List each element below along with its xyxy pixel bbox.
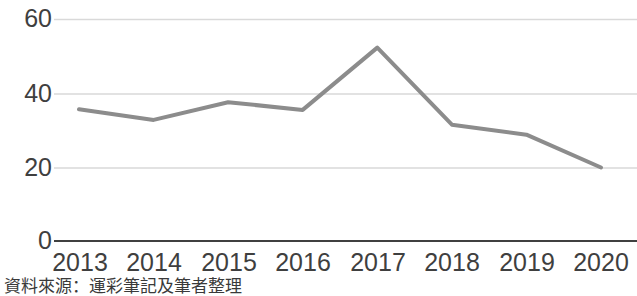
series-line	[79, 48, 601, 168]
y-tick-label-40: 40	[6, 81, 52, 106]
x-tick-label-2018: 2018	[424, 248, 480, 276]
y-tick-label-0: 0	[6, 228, 52, 253]
source-note: 資料來源：運彩筆記及筆者整理	[4, 277, 242, 296]
x-tick-label-2020: 2020	[573, 248, 629, 276]
x-tick-label-2015: 2015	[201, 248, 257, 276]
x-tick-label-2014: 2014	[126, 248, 182, 276]
x-tick-label-2016: 2016	[275, 248, 331, 276]
y-tick-label-60: 60	[6, 6, 52, 31]
x-tick-label-2013: 2013	[52, 248, 108, 276]
x-tick-label-2017: 2017	[350, 248, 406, 276]
x-tick-label-2019: 2019	[499, 248, 555, 276]
y-tick-label-20: 20	[6, 155, 52, 180]
